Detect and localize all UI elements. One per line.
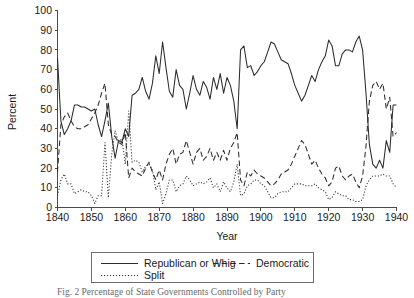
x-tick-label: 1890 — [215, 211, 239, 223]
x-tick-label: 1870 — [148, 211, 172, 223]
x-axis-tick-labels: 1840185018601870188018901900191019201930… — [46, 211, 409, 223]
y-axis-tick-labels: 0102030405060708090100 — [34, 4, 52, 213]
x-tick-label: 1910 — [283, 211, 307, 223]
y-tick-label: 90 — [40, 24, 52, 36]
y-tick-label: 50 — [40, 103, 52, 115]
series-line-democratic — [58, 81, 397, 187]
y-tick-label: 40 — [40, 122, 52, 134]
chart-legend: Republican or WhigDemocraticSplit — [92, 253, 314, 283]
data-series-group — [58, 36, 397, 203]
x-tick-label: 1940 — [385, 211, 409, 223]
x-axis-title: Year — [216, 230, 238, 242]
y-tick-label: 80 — [40, 44, 52, 56]
y-tick-label: 30 — [40, 142, 52, 154]
x-tick-label: 1850 — [80, 211, 104, 223]
legend-label: Split — [144, 269, 165, 281]
x-tick-label: 1840 — [46, 211, 70, 223]
y-tick-label: 10 — [40, 181, 52, 193]
legend-label: Democratic — [256, 257, 309, 269]
x-tick-label: 1860 — [114, 211, 138, 223]
y-tick-label: 100 — [34, 4, 52, 16]
y-tick-label: 20 — [40, 162, 52, 174]
x-tick-label: 1880 — [181, 211, 205, 223]
y-axis-title: Percent — [6, 94, 18, 130]
y-tick-label: 70 — [40, 63, 52, 75]
series-line-republican-or-whig — [58, 36, 397, 168]
x-tick-label: 1920 — [317, 211, 341, 223]
x-tick-label: 1900 — [249, 211, 273, 223]
y-tick-label: 60 — [40, 83, 52, 95]
figure-caption: Fig. 2 Percentage of State Governments C… — [57, 287, 407, 298]
x-tick-label: 1930 — [351, 211, 375, 223]
